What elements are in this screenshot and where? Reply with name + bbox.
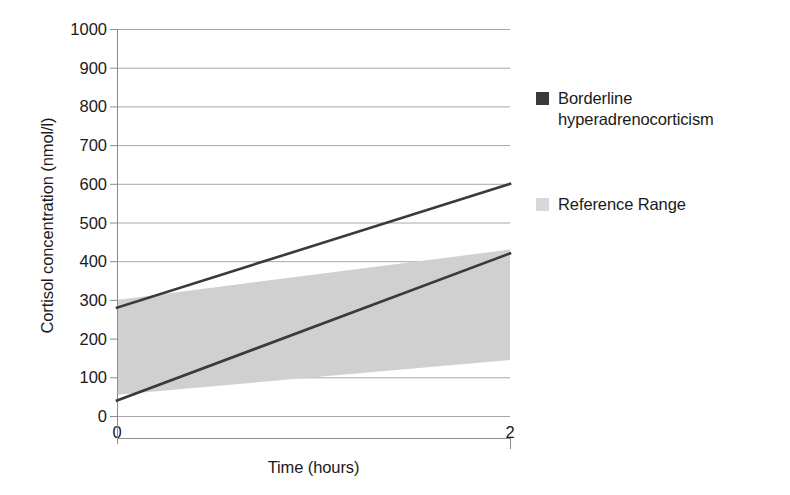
legend-label: Reference Range: [558, 194, 686, 215]
reference-range-polygon: [117, 250, 510, 395]
plot-area: [0, 0, 790, 495]
chart-container: Cortisol concentration (nmol/l) 01002003…: [0, 0, 790, 495]
legend-entry-1[interactable]: Borderline hyperadrenocorticism: [536, 88, 763, 130]
legend-swatch-icon: [536, 198, 549, 211]
legend-label: Borderline hyperadrenocorticism: [558, 88, 763, 130]
reference-range-band: [117, 250, 510, 395]
legend-entry-2[interactable]: Reference Range: [536, 194, 686, 215]
axis-ticks: [110, 30, 118, 445]
legend-swatch-icon: [536, 92, 549, 105]
